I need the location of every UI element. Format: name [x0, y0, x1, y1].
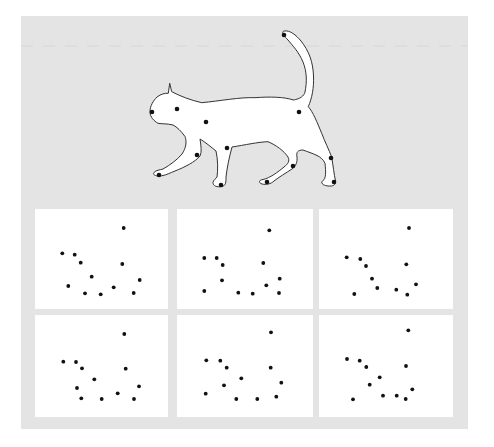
keypoint-dot — [73, 253, 77, 257]
keypoint-dot — [279, 381, 283, 385]
keypoint-scatter — [177, 315, 313, 417]
keypoint-dot — [406, 328, 410, 332]
keypoint-dot — [122, 332, 126, 336]
keypoint-dot — [61, 360, 65, 364]
keypoint-dot — [269, 330, 273, 334]
keypoint-back-paw-right — [332, 180, 337, 185]
keypoint-panel-1 — [35, 209, 168, 309]
keypoint-scatter — [35, 209, 168, 309]
keypoint-dot — [255, 397, 259, 401]
keypoint-dot — [124, 367, 128, 371]
keypoint-dot — [221, 263, 225, 267]
keypoint-rear-front-knee — [195, 153, 200, 158]
keypoint-dot — [137, 384, 141, 388]
keypoint-dot — [99, 292, 103, 296]
keypoint-dot — [378, 375, 382, 379]
keypoint-dot — [83, 291, 87, 295]
keypoint-dot — [204, 392, 208, 396]
keypoint-dot — [407, 226, 411, 230]
keypoint-nose — [150, 110, 155, 115]
keypoint-dot — [225, 366, 229, 370]
keypoint-dot — [364, 365, 368, 369]
keypoint-panel-3 — [319, 209, 453, 309]
keypoint-dot — [364, 264, 368, 268]
keypoint-dot — [358, 359, 362, 363]
keypoint-dot — [405, 293, 409, 297]
keypoint-dot — [239, 376, 243, 380]
keypoint-dot — [220, 278, 224, 282]
keypoint-dot — [345, 357, 349, 361]
keypoint-scatter — [35, 315, 168, 417]
keypoint-dot — [79, 396, 83, 400]
keypoint-panel-6 — [319, 315, 453, 417]
keypoint-dot — [352, 292, 356, 296]
keypoint-back-hock — [329, 156, 334, 161]
keypoint-panel-2 — [177, 209, 313, 309]
keypoint-dot — [132, 397, 136, 401]
keypoint-hip — [297, 110, 302, 115]
keypoint-dot — [410, 387, 414, 391]
keypoint-dot — [351, 397, 355, 401]
keypoint-back-knee — [291, 164, 296, 169]
keypoint-front-paw-left — [157, 173, 162, 178]
keypoint-eye — [175, 107, 180, 112]
keypoint-dot — [269, 366, 273, 370]
keypoint-dot — [80, 366, 84, 370]
keypoint-dot — [278, 277, 282, 281]
keypoint-scatter — [319, 315, 453, 417]
keypoint-dot — [202, 256, 206, 260]
keypoint-shoulder — [204, 120, 209, 125]
keypoint-dot — [274, 395, 278, 399]
keypoint-dot — [395, 394, 399, 398]
keypoint-dot — [251, 292, 255, 296]
keypoint-dot — [90, 275, 94, 279]
keypoint-panel-4 — [35, 315, 168, 417]
keypoint-front-paw-right — [219, 183, 224, 188]
keypoint-scatter — [319, 209, 453, 309]
cat-illustration — [0, 0, 494, 210]
keypoint-back-paw-left — [265, 180, 270, 185]
keypoint-dot — [138, 278, 142, 282]
keypoint-dot — [370, 277, 374, 281]
keypoint-dot — [277, 291, 281, 295]
keypoint-dot — [358, 257, 362, 261]
keypoint-dot — [66, 284, 70, 288]
keypoint-front-elbow — [225, 146, 230, 151]
keypoint-dot — [132, 291, 136, 295]
keypoint-dot — [264, 283, 268, 287]
keypoint-dot — [122, 226, 126, 230]
keypoint-dot — [368, 383, 372, 387]
keypoint-dot — [236, 291, 240, 295]
keypoint-dot — [100, 397, 104, 401]
keypoint-dot — [404, 397, 408, 401]
keypoint-dot — [218, 359, 222, 363]
keypoint-dot — [222, 383, 226, 387]
keypoint-dot — [215, 256, 219, 260]
keypoint-dot — [60, 251, 64, 255]
keypoint-dot — [234, 397, 238, 401]
keypoint-dot — [92, 377, 96, 381]
keypoint-dot — [267, 228, 271, 232]
keypoint-dot — [381, 394, 385, 398]
keypoint-dot — [112, 285, 116, 289]
keypoint-dot — [345, 255, 349, 259]
keypoint-panel-5 — [177, 315, 313, 417]
keypoint-dot — [74, 360, 78, 364]
keypoint-tail-tip — [282, 33, 287, 38]
keypoint-dot — [404, 364, 408, 368]
keypoint-dot — [414, 282, 418, 286]
keypoint-dot — [202, 289, 206, 293]
keypoint-dot — [394, 288, 398, 292]
keypoint-dot — [261, 261, 265, 265]
keypoint-scatter — [177, 209, 313, 309]
keypoint-dot — [79, 261, 83, 265]
keypoint-dot — [120, 262, 124, 266]
keypoint-dot — [116, 391, 120, 395]
keypoint-dot — [75, 386, 79, 390]
keypoint-dot — [375, 286, 379, 290]
keypoint-dot — [204, 358, 208, 362]
keypoint-dot — [404, 262, 408, 266]
